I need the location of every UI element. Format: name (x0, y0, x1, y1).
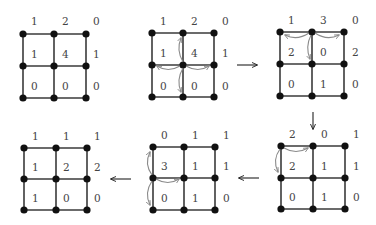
firing-arrow-left (285, 33, 309, 38)
node-value: 1 (288, 14, 295, 26)
firing-arrow-up (147, 152, 152, 175)
grid-2: 1 2 0 1 4 1 0 0 0 (148, 15, 228, 101)
node-value: 1 (223, 160, 230, 172)
node-value: 1 (321, 191, 328, 203)
node-value: 2 (191, 15, 198, 27)
firing-arrow-right (156, 179, 179, 183)
node-value: 0 (223, 192, 230, 204)
node-value: 1 (320, 78, 327, 90)
node-value: 0 (320, 46, 327, 58)
node-value: 0 (321, 128, 328, 140)
node-value: 0 (63, 192, 70, 204)
node-value: 3 (320, 14, 327, 26)
firing-arrow-down (275, 149, 280, 172)
node-value: 0 (352, 78, 359, 90)
node-values: 1 3 0 2 0 2 0 1 0 (288, 14, 359, 90)
node-value: 0 (62, 80, 69, 92)
node-value: 0 (352, 14, 359, 26)
node-value: 2 (62, 15, 69, 27)
node-value: 1 (63, 130, 70, 142)
node-value: 1 (192, 160, 199, 172)
node-value: 1 (160, 47, 167, 59)
node-value: 2 (288, 46, 295, 58)
node-values: 1 2 0 1 4 1 0 0 0 (31, 15, 100, 92)
node-value: 2 (352, 46, 359, 58)
node-value: 3 (161, 160, 168, 172)
node-values: 2 0 1 2 1 1 0 1 0 (289, 128, 360, 203)
node-value: 1 (192, 129, 199, 141)
grid-1: 1 2 0 1 4 1 0 0 0 (19, 15, 99, 102)
node-value: 1 (223, 129, 230, 141)
grid-3: 1 3 0 2 0 2 0 1 0 (276, 14, 358, 100)
node-value: 0 (93, 15, 100, 27)
node-value: 1 (353, 160, 360, 172)
firing-arrow-right (186, 66, 209, 70)
firing-arrow-left (157, 66, 180, 70)
node-value: 4 (62, 48, 69, 60)
node-value: 1 (160, 15, 167, 27)
step-arrows (111, 65, 313, 179)
firing-arrow-down (147, 181, 152, 205)
node-value: 0 (353, 191, 360, 203)
node-value: 2 (63, 161, 70, 173)
node-values: 0 1 1 3 1 1 0 1 0 (161, 129, 230, 204)
firing-arrow-right (315, 33, 339, 38)
grid-4: 2 0 1 2 1 1 0 1 0 (275, 128, 359, 213)
grid-5: 0 1 1 3 1 1 0 1 0 (147, 129, 229, 214)
node-value: 2 (94, 161, 101, 173)
node-value: 0 (94, 192, 101, 204)
node-value: 1 (222, 47, 229, 59)
node-value: 1 (93, 48, 100, 60)
node-value: 0 (288, 78, 295, 90)
firing-arrow-right (284, 148, 308, 152)
node-value: 1 (321, 160, 328, 172)
node-value: 0 (93, 80, 100, 92)
node-value: 0 (222, 80, 229, 92)
grid-6: 1 1 1 1 2 2 1 0 0 (20, 130, 100, 214)
firing-arrow-down (308, 35, 311, 59)
node-value: 0 (289, 191, 296, 203)
toppling-diagram: 1 2 0 1 4 1 0 0 0 (0, 0, 376, 225)
node-value: 0 (191, 80, 198, 92)
node-value: 4 (191, 47, 198, 59)
node-values: 1 2 0 1 4 1 0 0 0 (160, 15, 229, 92)
node-value: 0 (160, 80, 167, 92)
node-value: 1 (353, 128, 360, 140)
node-value: 1 (192, 192, 199, 204)
node-value: 2 (289, 160, 296, 172)
node-value: 1 (94, 130, 101, 142)
node-value: 1 (31, 48, 38, 60)
node-value: 2 (289, 128, 296, 140)
node-value: 0 (161, 192, 168, 204)
node-value: 0 (222, 15, 229, 27)
node-value: 1 (31, 15, 38, 27)
node-value: 1 (32, 161, 39, 173)
node-values: 1 1 1 1 2 2 1 0 0 (32, 130, 101, 204)
node-value: 1 (32, 130, 39, 142)
node-value: 0 (161, 129, 168, 141)
node-value: 1 (32, 192, 39, 204)
node-value: 0 (31, 80, 38, 92)
